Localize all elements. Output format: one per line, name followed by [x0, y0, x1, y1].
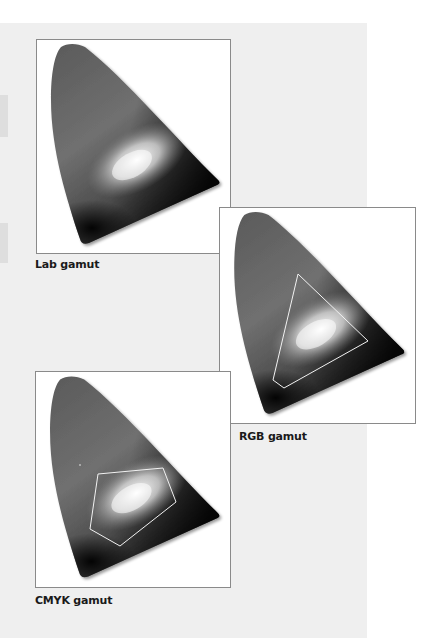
lab-gamut-panel	[36, 39, 231, 254]
cmyk-gamut-caption: CMYK gamut	[35, 594, 112, 607]
lab-gamut-diagram	[37, 40, 231, 254]
rgb-gamut-diagram	[220, 208, 416, 424]
cmyk-gamut-panel	[35, 371, 231, 588]
side-tab-lower	[0, 223, 8, 263]
rgb-gamut-caption: RGB gamut	[239, 430, 307, 443]
lab-gamut-caption: Lab gamut	[35, 258, 99, 271]
side-tab-upper	[0, 95, 8, 137]
rgb-gamut-panel	[219, 207, 416, 424]
cmyk-gamut-diagram	[36, 372, 231, 588]
